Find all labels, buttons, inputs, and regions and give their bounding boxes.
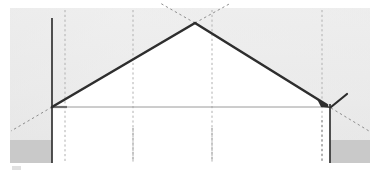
corner-smudge bbox=[12, 166, 21, 170]
left-support-block bbox=[10, 140, 52, 163]
lower-white-field bbox=[52, 107, 330, 163]
right-support-block bbox=[330, 140, 370, 163]
gable-truss-diagram bbox=[0, 0, 379, 173]
diagram-canvas bbox=[0, 0, 379, 173]
